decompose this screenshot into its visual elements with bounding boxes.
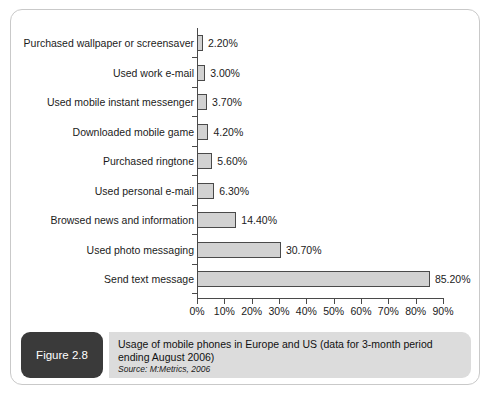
bar-row: 3.00% xyxy=(197,65,443,81)
caption-source: Source: M:Metrics, 2006 xyxy=(118,364,463,375)
bar-value-label: 6.30% xyxy=(219,183,249,199)
category-label: Send text message xyxy=(0,274,194,285)
bar xyxy=(197,183,214,199)
figure-caption-bar: Figure 2.8 Usage of mobile phones in Eur… xyxy=(21,332,471,378)
bar-value-label: 3.70% xyxy=(212,94,242,110)
caption-panel: Usage of mobile phones in Europe and US … xyxy=(109,332,471,378)
bar-value-label: 4.20% xyxy=(213,124,243,140)
bar-value-label: 3.00% xyxy=(210,65,240,81)
bar xyxy=(197,242,281,258)
bar-chart: Purchased wallpaper or screensaverUsed w… xyxy=(11,10,481,315)
category-label: Used mobile instant messenger xyxy=(0,97,194,108)
figure-number-label: Figure 2.8 xyxy=(36,349,88,361)
caption-text: Usage of mobile phones in Europe and US … xyxy=(118,338,463,363)
bar-value-label: 14.40% xyxy=(241,212,277,228)
category-label: Used personal e-mail xyxy=(0,186,194,197)
bar-row: 14.40% xyxy=(197,212,443,228)
bar-row: 5.60% xyxy=(197,153,443,169)
bar-row: 85.20% xyxy=(197,271,443,287)
bar xyxy=(197,94,207,110)
bar xyxy=(197,124,208,140)
x-tick xyxy=(197,299,198,304)
bar-value-label: 5.60% xyxy=(217,153,247,169)
x-tick xyxy=(279,299,280,304)
bar-value-label: 85.20% xyxy=(435,271,471,287)
x-tick xyxy=(306,299,307,304)
bar xyxy=(197,153,212,169)
category-label: Used work e-mail xyxy=(0,68,194,79)
x-tick xyxy=(224,299,225,304)
x-axis-line xyxy=(197,298,444,299)
x-tick xyxy=(334,299,335,304)
category-label: Downloaded mobile game xyxy=(0,127,194,138)
category-label: Purchased ringtone xyxy=(0,156,194,167)
bar-row: 30.70% xyxy=(197,242,443,258)
x-tick xyxy=(443,299,444,304)
bar xyxy=(197,65,205,81)
bar-value-label: 2.20% xyxy=(208,35,238,51)
x-tick xyxy=(416,299,417,304)
figure-number-badge: Figure 2.8 xyxy=(21,332,103,378)
bar-row: 3.70% xyxy=(197,94,443,110)
category-label: Browsed news and information xyxy=(0,215,194,226)
figure-frame: Purchased wallpaper or screensaverUsed w… xyxy=(10,9,480,385)
bar-row: 2.20% xyxy=(197,35,443,51)
bar xyxy=(197,212,236,228)
bar xyxy=(197,271,430,287)
x-tick xyxy=(252,299,253,304)
bar-row: 6.30% xyxy=(197,183,443,199)
plot-area: 2.20%3.00%3.70%4.20%5.60%6.30%14.40%30.7… xyxy=(197,28,443,298)
x-tick xyxy=(388,299,389,304)
category-label: Purchased wallpaper or screensaver xyxy=(0,38,194,49)
bar xyxy=(197,35,203,51)
bar-value-label: 30.70% xyxy=(286,242,322,258)
x-tick xyxy=(361,299,362,304)
category-label: Used photo messaging xyxy=(0,245,194,256)
x-tick-label: 90% xyxy=(423,306,463,317)
bar-row: 4.20% xyxy=(197,124,443,140)
